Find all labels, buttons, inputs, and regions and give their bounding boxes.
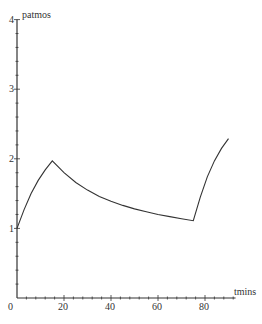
- y-tick-label-3: 3: [9, 83, 14, 94]
- series-line-patmos: [17, 139, 229, 229]
- x-tick-label-20: 20: [58, 301, 68, 312]
- x-tick-label-80: 80: [199, 301, 209, 312]
- axes: [17, 20, 236, 298]
- y-tick-label-1: 1: [9, 223, 14, 234]
- line-chart: 0 20 40 60 80 1 2 3 4 tmins patmos: [0, 0, 262, 324]
- x-tick-label-40: 40: [105, 301, 115, 312]
- origin-label: 0: [8, 301, 13, 312]
- tick-labels: 0 20 40 60 80 1 2 3 4 tmins patmos: [8, 9, 256, 312]
- y-tick-label-4: 4: [9, 14, 14, 25]
- y-axis-title: patmos: [22, 9, 51, 20]
- x-tick-label-60: 60: [152, 301, 162, 312]
- plot-area: [17, 139, 229, 229]
- y-tick-label-2: 2: [9, 153, 14, 164]
- axis-ticks: [14, 20, 233, 301]
- x-axis-title: tmins: [234, 286, 256, 297]
